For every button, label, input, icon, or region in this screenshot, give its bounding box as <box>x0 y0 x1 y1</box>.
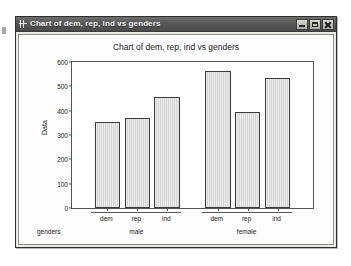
y-axis-tick-mark <box>69 62 72 63</box>
y-axis-tick-label: 0 <box>64 205 68 212</box>
y-axis-label: Data <box>41 120 48 135</box>
x-axis-tick-mark <box>218 208 219 211</box>
y-axis-tick-label: 600 <box>57 59 68 66</box>
x-axis-group-label-female: female <box>237 228 257 235</box>
close-icon[interactable] <box>322 19 334 30</box>
y-axis-tick-mark <box>69 159 72 160</box>
x-axis-category-label: dem <box>100 215 113 222</box>
y-axis-tick-mark <box>69 110 72 111</box>
y-axis-tick-mark <box>69 135 72 136</box>
x-axis-label: genders <box>37 228 61 235</box>
x-axis-tick-mark <box>248 208 249 211</box>
graph-window-icon <box>19 20 27 28</box>
y-axis-tick-label: 500 <box>57 83 68 90</box>
bar-male-rep[interactable] <box>125 118 151 208</box>
maximize-button[interactable] <box>309 19 321 30</box>
scan-edge-artifact <box>2 27 6 34</box>
bar-chart: Chart of dem, rep, ind vs genders Data g… <box>19 35 333 244</box>
x-axis-category-label: ind <box>272 215 281 222</box>
bars-layer <box>72 62 313 208</box>
x-axis-category-label: rep <box>242 215 251 222</box>
y-axis-tick-label: 100 <box>57 180 68 187</box>
y-axis-tick-mark <box>69 208 72 209</box>
bar-female-rep[interactable] <box>235 112 261 208</box>
x-axis-tick-mark <box>278 208 279 211</box>
window-client-area: Chart of dem, rep, ind vs genders Data g… <box>18 34 334 245</box>
x-axis-category-label: ind <box>162 215 171 222</box>
bar-male-dem[interactable] <box>95 122 121 208</box>
x-axis-group-rule <box>202 212 292 213</box>
y-axis-tick-label: 300 <box>57 132 68 139</box>
graph-window[interactable]: Chart of dem, rep, ind vs genders Chart … <box>15 16 337 248</box>
x-axis-category-label: dem <box>210 215 223 222</box>
x-axis-group-rule <box>91 212 181 213</box>
window-controls <box>296 19 334 30</box>
plot-area: 0100200300400500600 <box>71 61 314 209</box>
y-axis-tick-mark <box>69 86 72 87</box>
x-axis-tick-mark <box>137 208 138 211</box>
chart-title: Chart of dem, rep, ind vs genders <box>19 42 333 52</box>
window-titlebar[interactable]: Chart of dem, rep, ind vs genders <box>16 17 336 32</box>
y-axis-tick-label: 400 <box>57 107 68 114</box>
bar-female-dem[interactable] <box>205 71 231 208</box>
x-axis-tick-mark <box>167 208 168 211</box>
y-axis-tick-mark <box>69 183 72 184</box>
screen: Chart of dem, rep, ind vs genders Chart … <box>0 0 351 266</box>
x-axis-tick-mark <box>107 208 108 211</box>
window-title: Chart of dem, rep, ind vs genders <box>30 20 160 28</box>
minimize-button[interactable] <box>296 19 308 30</box>
bar-female-ind[interactable] <box>265 78 291 208</box>
bar-male-ind[interactable] <box>154 97 180 208</box>
x-axis-category-label: rep <box>132 215 141 222</box>
x-axis-group-label-male: male <box>129 228 143 235</box>
y-axis-tick-label: 200 <box>57 156 68 163</box>
